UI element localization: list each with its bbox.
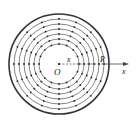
charge-dot <box>17 80 19 82</box>
charge-dot <box>43 26 45 28</box>
charge-dot <box>72 49 74 51</box>
charge-dot <box>35 54 37 56</box>
charge-dot <box>58 88 60 90</box>
charge-dot <box>47 35 49 37</box>
charge-dot <box>70 91 72 93</box>
charge-dot <box>40 71 42 73</box>
origin-point <box>58 63 60 65</box>
x-axis-arrow-icon <box>123 62 129 66</box>
charge-dot <box>30 91 32 93</box>
charge-dot <box>71 31 73 33</box>
charge-dot <box>13 63 15 65</box>
charge-dot <box>50 45 52 47</box>
charge-dot <box>71 95 73 97</box>
charge-dot <box>90 50 92 52</box>
charge-dot <box>100 46 102 48</box>
charge-dot <box>47 91 49 93</box>
charge-dot <box>41 22 43 24</box>
charge-dot <box>45 95 47 97</box>
charge-dot <box>58 93 60 95</box>
charge-dot <box>81 73 83 75</box>
origin-label: O <box>54 67 61 77</box>
charge-dot <box>43 100 45 102</box>
charge-dot <box>49 86 51 88</box>
charge-dot <box>38 63 40 65</box>
charge-dot <box>23 63 25 65</box>
charge-dot <box>44 77 46 79</box>
charge-dot <box>40 45 42 47</box>
charge-dot <box>50 82 52 84</box>
charge-dot <box>81 54 83 56</box>
charge-dot <box>30 75 32 77</box>
charge-dot <box>26 95 28 97</box>
charge-dot <box>28 63 30 65</box>
charge-dot <box>75 105 77 107</box>
charge-dot <box>21 78 23 80</box>
charge-dot <box>58 18 60 20</box>
charge-dot <box>83 38 85 40</box>
charge-dot <box>70 35 72 37</box>
charge-dot <box>40 81 42 83</box>
charge-dot <box>83 88 85 90</box>
charge-dot <box>100 80 102 82</box>
charge-dot <box>75 22 77 24</box>
inner-x-label: x <box>66 55 71 64</box>
charge-dot <box>35 73 37 75</box>
charge-dot <box>26 76 28 78</box>
charge-dot <box>58 43 60 45</box>
charge-dot <box>26 50 28 52</box>
charge-dot <box>73 26 75 28</box>
charge-dot <box>30 52 32 54</box>
charge-dot <box>26 31 28 33</box>
charge-dot <box>66 82 68 84</box>
charge-dot <box>86 91 88 93</box>
charge-dot <box>76 45 78 47</box>
charge-dot <box>86 35 88 37</box>
charge-dot <box>66 45 68 47</box>
charge-dot <box>41 105 43 107</box>
charge-dot <box>58 98 60 100</box>
charge-dot <box>58 108 60 110</box>
charge-dot <box>58 83 60 85</box>
charge-dot <box>40 55 42 57</box>
charge-dot <box>37 42 39 44</box>
charge-dot <box>33 63 35 65</box>
charge-dot <box>58 38 60 40</box>
charge-dot <box>33 38 35 40</box>
radius-label: R <box>99 55 105 64</box>
x-axis-label: x <box>121 67 126 76</box>
charge-dot <box>79 84 81 86</box>
charge-dot <box>18 63 20 65</box>
charge-dot <box>58 33 60 35</box>
charge-dot <box>95 48 97 50</box>
charge-dot <box>58 103 60 105</box>
charge-dot <box>45 31 47 33</box>
charge-dot <box>73 100 75 102</box>
charge-dot <box>90 31 92 33</box>
concentric-rings-diagram: O x R x <box>0 0 137 135</box>
charge-dot <box>72 77 74 79</box>
charge-dot <box>77 71 79 73</box>
charge-dot <box>86 75 88 77</box>
charge-dot <box>33 88 35 90</box>
charge-dot <box>58 23 60 25</box>
charge-dot <box>90 76 92 78</box>
charge-dot <box>44 49 46 51</box>
charge-dot <box>95 78 97 80</box>
charge-dot <box>30 35 32 37</box>
charge-dot <box>68 86 70 88</box>
charge-dot <box>86 52 88 54</box>
charge-dot <box>21 48 23 50</box>
charge-dot <box>79 42 81 44</box>
charge-dot <box>76 81 78 83</box>
charge-dot <box>37 84 39 86</box>
charge-dot <box>58 28 60 30</box>
charge-dot <box>17 46 19 48</box>
charge-dot <box>68 40 70 42</box>
charge-dot <box>49 40 51 42</box>
charge-dot <box>90 95 92 97</box>
charge-dot <box>77 55 79 57</box>
